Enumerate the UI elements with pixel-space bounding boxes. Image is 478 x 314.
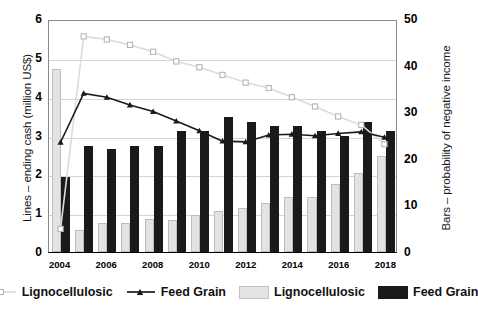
x-tick-2008: 2008 (133, 259, 173, 270)
bar-feed-grain-2012 (247, 122, 256, 252)
y-tick-left-6: 6 (26, 12, 42, 26)
bar-feed-grain-2016 (340, 136, 349, 253)
marker-2013 (266, 85, 271, 90)
y-tick-left-5: 5 (26, 51, 42, 65)
bar-feed-grain-2011 (224, 117, 233, 252)
bar-lignocellulosic-2005 (75, 230, 84, 252)
bar-feed-grain-2007 (130, 146, 139, 252)
marker-2008 (151, 49, 156, 54)
marker-2005 (81, 90, 87, 96)
bar-feed-grain-2004 (61, 177, 70, 252)
legend-label: Lignocellulosic (274, 285, 365, 299)
bar-lignocellulosic-2004 (52, 69, 61, 252)
y-tick-left-3: 3 (26, 129, 42, 143)
bar-lignocellulosic-2010 (191, 215, 200, 252)
bar-lignocellulosic-2009 (168, 220, 177, 252)
dark-bar-swatch-icon (378, 286, 408, 299)
legend-item-0[interactable]: Lignocellulosic (0, 285, 113, 299)
marker-2015 (312, 104, 317, 109)
marker-2006 (104, 37, 109, 42)
bar-feed-grain-2006 (107, 149, 116, 252)
x-tick-2004: 2004 (40, 259, 80, 270)
bar-lignocellulosic-2018 (377, 156, 386, 252)
line-path (61, 93, 385, 142)
y-tick-left-1: 1 (26, 206, 42, 220)
x-tick-2016: 2016 (319, 259, 359, 270)
open-square-marker-icon (0, 286, 17, 298)
y-axis-right-title: Bars – probability of negative income (440, 18, 452, 258)
marker-2016 (336, 114, 341, 119)
gridline (49, 99, 396, 100)
y-tick-right-40: 40 (404, 59, 424, 73)
bar-lignocellulosic-2016 (331, 184, 340, 253)
bar-lignocellulosic-2012 (238, 208, 247, 252)
x-tick-2012: 2012 (226, 259, 266, 270)
marker-2005 (81, 34, 86, 39)
legend-label: Lignocellulosic (22, 285, 113, 299)
bar-lignocellulosic-2015 (307, 197, 316, 252)
filled-triangle-marker-icon (126, 286, 156, 298)
y-tick-left-4: 4 (26, 90, 42, 104)
bar-lignocellulosic-2007 (121, 223, 130, 252)
bar-feed-grain-2018 (386, 131, 395, 252)
light-bar-swatch-icon (239, 286, 269, 299)
y-tick-right-0: 0 (404, 245, 424, 259)
y-tick-right-10: 10 (404, 198, 424, 212)
marker-2009 (173, 118, 179, 124)
x-tick-2006: 2006 (86, 259, 126, 270)
x-tick-2018: 2018 (365, 259, 405, 270)
bar-feed-grain-2005 (84, 146, 93, 252)
y-tick-left-0: 0 (26, 245, 42, 259)
chart-legend: LignocellulosicFeed GrainLignocellulosic… (0, 279, 465, 305)
legend-item-1[interactable]: Feed Grain (126, 285, 226, 299)
bar-feed-grain-2013 (270, 126, 279, 252)
bar-lignocellulosic-2006 (98, 223, 107, 252)
bar-lignocellulosic-2011 (214, 211, 223, 252)
marker-2007 (127, 42, 132, 47)
y-tick-right-20: 20 (404, 152, 424, 166)
bar-feed-grain-2015 (317, 131, 326, 252)
bar-lignocellulosic-2014 (284, 197, 293, 252)
plot-area (48, 20, 397, 253)
bar-feed-grain-2009 (177, 131, 186, 252)
marker-2007 (127, 102, 133, 108)
bar-lignocellulosic-2017 (354, 173, 363, 252)
legend-label: Feed Grain (161, 285, 226, 299)
x-tick-2010: 2010 (179, 259, 219, 270)
y-tick-right-30: 30 (404, 105, 424, 119)
legend-item-3[interactable]: Feed Grain (378, 285, 478, 299)
marker-2010 (197, 65, 202, 70)
x-tick-2014: 2014 (272, 259, 312, 270)
legend-label: Feed Grain (413, 285, 478, 299)
marker-2011 (220, 72, 225, 77)
bar-feed-grain-2008 (154, 146, 163, 252)
y-tick-left-2: 2 (26, 167, 42, 181)
legend-item-2[interactable]: Lignocellulosic (239, 285, 365, 299)
gridline (49, 60, 396, 61)
y-tick-right-50: 50 (404, 12, 424, 26)
bar-feed-grain-2010 (200, 131, 209, 252)
bar-lignocellulosic-2013 (261, 203, 270, 252)
marker-2008 (150, 108, 156, 114)
bar-feed-grain-2017 (363, 122, 372, 252)
bar-feed-grain-2014 (293, 126, 302, 252)
marker-2012 (243, 80, 248, 85)
bar-lignocellulosic-2008 (145, 219, 154, 252)
